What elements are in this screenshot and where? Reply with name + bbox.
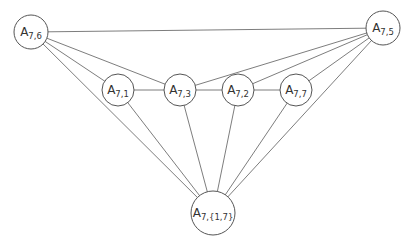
node-a72: A7,2 bbox=[222, 74, 254, 106]
node-a75: A7,5 bbox=[366, 11, 400, 45]
nodes: A7,6A7,5A7,1A7,3A7,2A7,7A7,{1,7} bbox=[14, 11, 400, 235]
edge-a71-a717 bbox=[118, 90, 213, 213]
node-a77: A7,7 bbox=[280, 74, 312, 106]
node-a76: A7,6 bbox=[14, 15, 48, 49]
edge-a76-a717 bbox=[31, 32, 213, 213]
node-a71: A7,1 bbox=[102, 74, 134, 106]
edge-a75-a717 bbox=[213, 28, 383, 213]
graph-diagram: A7,6A7,5A7,1A7,3A7,2A7,7A7,{1,7} bbox=[0, 0, 411, 243]
edge-a75-a73 bbox=[180, 28, 383, 90]
edges bbox=[31, 28, 383, 213]
node-a73: A7,3 bbox=[164, 74, 196, 106]
node-a717: A7,{1,7} bbox=[191, 191, 235, 235]
edge-a75-a72 bbox=[238, 28, 383, 90]
edge-a76-a75 bbox=[31, 28, 383, 32]
